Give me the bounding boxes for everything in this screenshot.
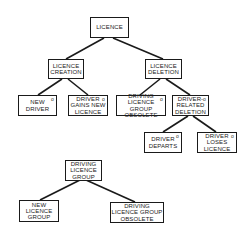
edge-deletion-related	[166, 79, 190, 95]
edge-group-obsolete	[86, 180, 135, 202]
node-label: DRIVER LOSES LICENCE	[204, 133, 231, 152]
selection-marker-icon: o	[51, 97, 54, 102]
node-driver-gains-new-licence: DRIVER GAINS NEW LICENCE o	[68, 95, 108, 116]
edge-creation-newdriver	[38, 79, 62, 95]
node-label: LICENCE CREATION	[50, 63, 81, 76]
node-label: DRIVING LICENCE GROUP OBSOLETE	[112, 203, 163, 222]
selection-marker-icon: o	[102, 97, 105, 102]
node-label: DRIVING LICENCE GROUP	[70, 161, 97, 180]
selection-marker-icon: o	[176, 134, 179, 139]
node-label: DRIVING LICENCE GROUP OBSOLETE	[117, 93, 165, 118]
node-driver-related-deletion: DRIVER- RELATED DELETION o	[172, 95, 209, 116]
node-driving-licence-group-obsolete-2: DRIVING LICENCE GROUP OBSOLETE	[110, 202, 164, 223]
edge-related-loses	[193, 116, 216, 132]
node-label: LICENCE DELETION	[148, 63, 179, 76]
node-label: DRIVER GAINS NEW LICENCE	[70, 96, 105, 115]
edge-group-new	[40, 180, 80, 200]
selection-marker-icon: o	[160, 97, 163, 102]
node-licence-creation: LICENCE CREATION	[48, 59, 84, 79]
node-driving-licence-group-obsolete: DRIVING LICENCE GROUP OBSOLETE o	[116, 95, 166, 116]
edge-licence-creation	[66, 38, 104, 59]
node-label: NEW DRIVER	[26, 99, 49, 112]
selection-marker-icon: o	[203, 97, 206, 102]
node-label: LICENCE	[96, 24, 123, 30]
node-label: DRIVER- RELATED DELETION	[175, 96, 206, 115]
edge-related-departs	[163, 116, 188, 132]
node-driver-loses-licence: DRIVER LOSES LICENCE o	[197, 132, 237, 153]
node-new-driver: NEW DRIVER o	[18, 95, 57, 116]
node-driver-departs: DRIVER DEPARTS o	[144, 132, 182, 153]
node-licence: LICENCE	[90, 17, 129, 38]
node-label: NEW LICENCE GROUP	[26, 202, 53, 221]
edge-creation-gains	[68, 79, 88, 95]
node-licence-deletion: LICENCE DELETION	[145, 59, 182, 79]
edge-licence-deletion	[113, 38, 163, 59]
node-driving-licence-group: DRIVING LICENCE GROUP	[65, 160, 102, 181]
node-new-licence-group: NEW LICENCE GROUP	[19, 200, 59, 222]
selection-marker-icon: o	[231, 134, 234, 139]
node-label: DRIVER DEPARTS	[149, 136, 178, 149]
